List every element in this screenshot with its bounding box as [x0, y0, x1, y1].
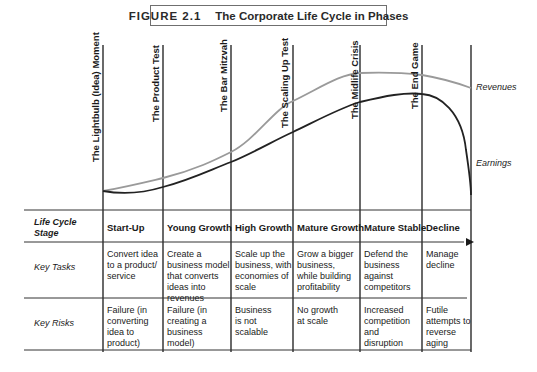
risks-mature-growth: No growthat scale: [297, 305, 338, 327]
tasks-mature-growth: Grow a biggerbusiness,while buildingprof…: [297, 249, 354, 293]
row-header-stage: Life Cycle Stage: [34, 217, 77, 239]
time-arrow-icon: [466, 238, 474, 246]
transition-product-test: The Product Test: [150, 45, 161, 122]
risks-high-growth: Businessis notscalable: [235, 305, 272, 338]
tasks-high-growth: Scale up thebusiness, witheconomies ofsc…: [235, 249, 292, 293]
risks-young-growth: Failure (increating abusinessmodel): [167, 305, 207, 349]
stage-high-growth: High Growth: [235, 222, 292, 233]
stage-decline: Decline: [426, 222, 460, 233]
risks-mature-stable: Increasedcompetitionanddisruption: [364, 305, 410, 349]
transition-scaling-up-test: The Scaling Up Test: [279, 38, 290, 128]
earnings-label: Earnings: [476, 158, 512, 168]
transition-bar-mitzvah: The Bar Mitzvah: [218, 39, 229, 112]
stage-mature-stable: Mature Stable: [364, 222, 426, 233]
row-header-key-tasks: Key Tasks: [34, 262, 75, 273]
stage-mature-growth: Mature Growth: [297, 222, 364, 233]
tasks-young-growth: Create abusiness modelthat convertsideas…: [167, 249, 230, 304]
risks-decline: Futileattempts toreverseaging: [426, 305, 471, 349]
tasks-start-up: Convert ideato a product/service: [107, 249, 158, 282]
risks-start-up: Failure (inconvertingidea toproduct): [107, 305, 149, 349]
stage-young-growth: Young Growth: [167, 222, 232, 233]
transition-end-game: The End Game: [409, 42, 420, 109]
tasks-decline: Managedecline: [426, 249, 459, 271]
tasks-mature-stable: Defend thebusinessagainstcompetitors: [364, 249, 411, 293]
transition-lightbulb-moment: The Lightbulb (Idea) Moment: [90, 32, 101, 162]
revenues-label: Revenues: [476, 82, 517, 92]
stage-start-up: Start-Up: [107, 222, 144, 233]
row-header-key-risks: Key Risks: [34, 318, 74, 329]
transition-midlife-crisis: The Midlife Crisis: [349, 40, 360, 119]
